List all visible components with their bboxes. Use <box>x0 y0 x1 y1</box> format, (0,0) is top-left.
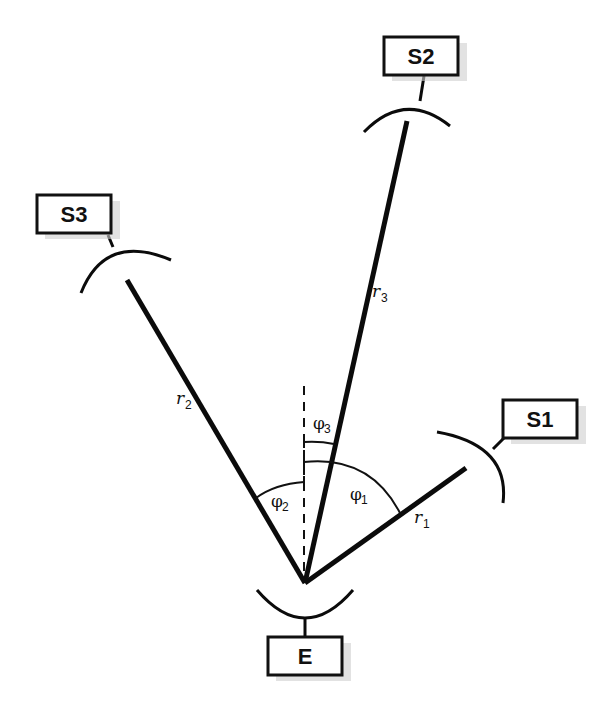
label-r3: r 3 <box>372 281 388 305</box>
station-label-S3: S3 <box>61 202 88 227</box>
svg-text:1: 1 <box>423 517 430 531</box>
svg-text:r: r <box>176 388 185 408</box>
svg-text:1: 1 <box>361 493 368 507</box>
svg-text:r: r <box>414 507 423 527</box>
label-r1: r 1 <box>414 507 430 531</box>
station-label-S1: S1 <box>527 407 554 432</box>
svg-text:3: 3 <box>324 422 331 436</box>
beam-r1 <box>305 468 466 583</box>
diagram-canvas: S2 S3 S1 E r 1 r 2 r 3 φ 1 φ 2 φ 3 <box>0 0 614 711</box>
antenna-arc-S3 <box>81 251 171 293</box>
svg-text:2: 2 <box>282 500 289 514</box>
label-phi3: φ 3 <box>313 413 331 436</box>
station-label-S2: S2 <box>408 44 435 69</box>
svg-text:r: r <box>372 281 381 301</box>
label-phi2: φ 2 <box>271 491 289 514</box>
svg-text:3: 3 <box>381 291 388 305</box>
antenna-arc-E <box>257 590 353 618</box>
angle-arc-phi3 <box>304 442 334 444</box>
label-phi1: φ 1 <box>350 484 368 507</box>
svg-text:2: 2 <box>185 398 192 412</box>
beam-r3 <box>305 121 407 583</box>
station-label-E: E <box>298 644 313 669</box>
label-r2: r 2 <box>176 388 192 412</box>
antenna-arc-S1 <box>437 432 504 503</box>
beam-r2 <box>127 280 305 583</box>
